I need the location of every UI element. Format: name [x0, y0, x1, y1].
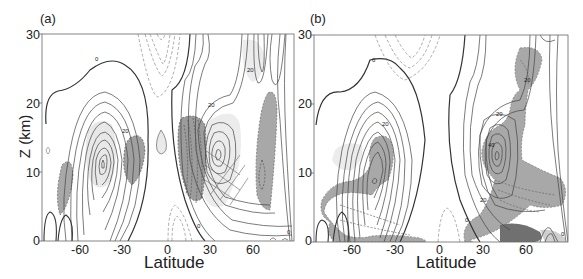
contour-label: 20 — [122, 128, 129, 134]
contour-label: 20 — [208, 102, 215, 108]
contour-label: 20 — [480, 197, 487, 203]
contour-label: 40 — [488, 142, 495, 148]
panel-a-plot — [44, 34, 292, 241]
contour-label: 0 — [197, 223, 201, 229]
contour-label: 0 — [372, 57, 376, 63]
contour-plots: 0 20 20 20 0 0 — [0, 0, 583, 279]
contour-label: 20 — [524, 77, 531, 83]
contour-label: 20 — [247, 67, 254, 73]
panel-b-plot — [316, 35, 568, 243]
contour-label: 20 — [382, 121, 389, 127]
contour-label: 20 — [496, 111, 503, 117]
contour-label: 0 — [95, 56, 99, 62]
contour-label: 0 — [287, 229, 291, 235]
